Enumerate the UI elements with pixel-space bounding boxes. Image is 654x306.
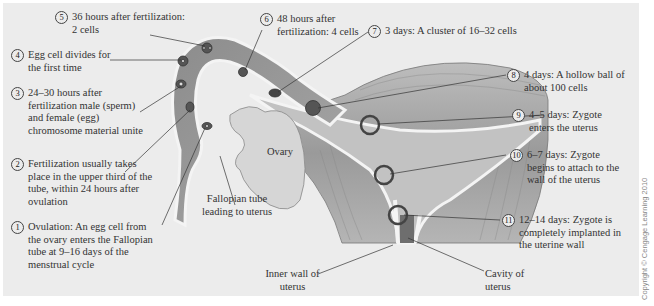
step-text: 4–5 days: Zygote enters the uterus bbox=[529, 109, 629, 134]
step-text: 36 hours after fertilization: 2 cells bbox=[72, 11, 187, 36]
step-number-badge: 3 bbox=[11, 87, 24, 100]
step-1-label: 1Ovulation: An egg cell from the ovary e… bbox=[11, 221, 171, 271]
step-number-badge: 2 bbox=[11, 158, 24, 171]
step-text: 3 days: A cluster of 16–32 cells bbox=[385, 25, 555, 38]
step-number-badge: 1 bbox=[11, 221, 24, 234]
step-number-badge: 6 bbox=[260, 13, 273, 26]
step-11-label: 1112–14 days: Zygote is completely impla… bbox=[502, 214, 637, 252]
step-7-label: 73 days: A cluster of 16–32 cells bbox=[368, 25, 558, 38]
step-text: Ovulation: An egg cell from the ovary en… bbox=[28, 221, 161, 271]
step-number-badge: 9 bbox=[512, 109, 525, 122]
step-2-label: 2Fertilization usually takes place in th… bbox=[11, 158, 156, 208]
step-number-badge: 4 bbox=[11, 49, 24, 62]
step-9-label: 94–5 days: Zygote enters the uterus bbox=[512, 109, 637, 134]
step-8-label: 84 days: A hollow ball of about 100 cell… bbox=[507, 69, 637, 94]
step-text: 12–14 days: Zygote is completely implant… bbox=[519, 214, 631, 252]
step-5-label: 536 hours after fertilization: 2 cells bbox=[55, 11, 195, 36]
step-number-badge: 5 bbox=[55, 11, 68, 24]
step-number-badge: 10 bbox=[510, 149, 523, 162]
step-4-label: 4Egg cell divides for the first time bbox=[11, 49, 121, 74]
step-6-label: 648 hours after fertilization: 4 cells bbox=[260, 13, 380, 38]
step-3-label: 324–30 hours after fertilization male (s… bbox=[11, 87, 156, 137]
copyright-notice: Copyright © Cengage Learning 2010 bbox=[640, 178, 649, 300]
step-text: Fertilization usually takes place in the… bbox=[28, 158, 156, 208]
step-number-badge: 7 bbox=[368, 25, 381, 38]
cavity-label: Cavity of uterus bbox=[485, 268, 535, 293]
step-text: 24–30 hours after fertilization male (sp… bbox=[28, 87, 148, 137]
step-text: 48 hours after fertilization: 4 cells bbox=[277, 13, 377, 38]
step-text: 6–7 days: Zygote begins to attach to the… bbox=[527, 149, 627, 187]
step-number-badge: 8 bbox=[507, 69, 520, 82]
ovary-label: Ovary bbox=[260, 146, 300, 159]
step-10-label: 106–7 days: Zygote begins to attach to t… bbox=[510, 149, 635, 187]
inner-wall-label: Inner wall of uterus bbox=[265, 268, 320, 293]
step-number-badge: 11 bbox=[502, 214, 515, 227]
step-text: Egg cell divides for the first time bbox=[28, 49, 120, 74]
fallopian-tube-label: Fallopian tube leading to uterus bbox=[192, 193, 282, 218]
step-text: 4 days: A hollow ball of about 100 cells bbox=[524, 69, 632, 94]
